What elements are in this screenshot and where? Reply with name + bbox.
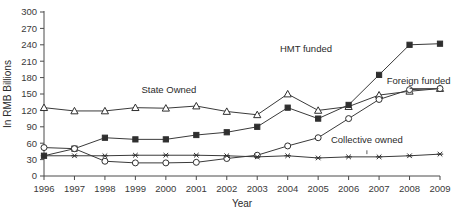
x-tick-label: 1998 bbox=[94, 183, 115, 194]
y-tick-label: 30 bbox=[26, 154, 37, 165]
marker-asterisk bbox=[102, 153, 108, 158]
marker-open-circle bbox=[193, 159, 199, 165]
series-label-collective-owned: Collective owned bbox=[331, 134, 403, 145]
line-chart: 0306090120150180210240270300In RMB Billi… bbox=[0, 0, 460, 211]
marker-open-circle bbox=[407, 87, 413, 93]
marker-open-circle bbox=[346, 116, 352, 122]
marker-asterisk bbox=[406, 153, 412, 158]
chart-canvas: 0306090120150180210240270300In RMB Billi… bbox=[0, 0, 460, 211]
x-tick-label: 1997 bbox=[64, 183, 85, 194]
marker-open-triangle bbox=[193, 102, 200, 108]
series-state-owned bbox=[40, 85, 443, 118]
marker-asterisk bbox=[71, 153, 77, 158]
x-tick-label: 1996 bbox=[33, 183, 54, 194]
y-tick-label: 0 bbox=[32, 170, 37, 181]
marker-asterisk bbox=[376, 155, 382, 160]
y-tick-label: 60 bbox=[26, 138, 37, 149]
y-tick-label: 90 bbox=[26, 121, 37, 132]
marker-asterisk bbox=[193, 153, 199, 158]
x-tick-label: 2007 bbox=[369, 183, 390, 194]
x-tick-label: 2006 bbox=[338, 183, 359, 194]
x-tick-label: 2009 bbox=[429, 183, 450, 194]
marker-filled-square bbox=[102, 135, 107, 140]
marker-asterisk bbox=[345, 155, 351, 160]
x-tick-label: 2004 bbox=[277, 183, 298, 194]
marker-filled-square bbox=[407, 42, 412, 47]
y-tick-label: 150 bbox=[21, 88, 37, 99]
marker-filled-square bbox=[437, 41, 442, 46]
y-tick-label: 300 bbox=[21, 6, 37, 17]
x-tick-label: 2001 bbox=[186, 183, 207, 194]
marker-asterisk bbox=[437, 152, 443, 157]
marker-filled-square bbox=[194, 132, 199, 137]
x-tick-label: 2003 bbox=[247, 183, 268, 194]
x-axis: 1996199719981999200020012002200320042005… bbox=[33, 176, 450, 194]
marker-filled-square bbox=[316, 116, 321, 121]
y-tick-label: 120 bbox=[21, 105, 37, 116]
y-axis-title: In RMB Billions bbox=[2, 60, 13, 128]
marker-filled-square bbox=[133, 137, 138, 142]
x-tick-label: 2000 bbox=[155, 183, 176, 194]
y-tick-label: 180 bbox=[21, 72, 37, 83]
marker-open-circle bbox=[315, 135, 321, 141]
marker-filled-square bbox=[163, 137, 168, 142]
x-tick-label: 2005 bbox=[308, 183, 329, 194]
marker-open-circle bbox=[41, 145, 47, 151]
x-tick-label: 2008 bbox=[399, 183, 420, 194]
marker-open-circle bbox=[285, 143, 291, 149]
marker-open-circle bbox=[71, 146, 77, 152]
marker-filled-square bbox=[346, 102, 351, 107]
marker-open-triangle bbox=[284, 90, 291, 96]
y-tick-label: 270 bbox=[21, 23, 37, 34]
y-tick-label: 240 bbox=[21, 39, 37, 50]
marker-open-circle bbox=[163, 160, 169, 166]
marker-filled-square bbox=[285, 105, 290, 110]
marker-asterisk bbox=[132, 153, 138, 158]
x-tick-label: 1999 bbox=[125, 183, 146, 194]
marker-asterisk bbox=[315, 156, 321, 161]
series-collective-owned bbox=[41, 152, 443, 160]
x-axis-title: Year bbox=[232, 198, 253, 209]
series-label-hmt-funded: HMT funded bbox=[280, 43, 332, 54]
marker-open-circle bbox=[376, 96, 382, 102]
x-tick-label: 2002 bbox=[216, 183, 237, 194]
y-tick-label: 210 bbox=[21, 56, 37, 67]
marker-filled-square bbox=[255, 124, 260, 129]
series-label-state-owned: State Owned bbox=[141, 84, 196, 95]
marker-open-circle bbox=[132, 160, 138, 166]
marker-open-triangle bbox=[40, 104, 47, 110]
y-axis: 0306090120150180210240270300 bbox=[21, 6, 44, 181]
marker-filled-square bbox=[224, 130, 229, 135]
series-label-foreign-funded: Foreign funded bbox=[387, 75, 451, 86]
marker-asterisk bbox=[163, 153, 169, 158]
marker-asterisk bbox=[284, 153, 290, 158]
marker-open-circle bbox=[102, 158, 108, 164]
marker-filled-square bbox=[376, 72, 381, 77]
